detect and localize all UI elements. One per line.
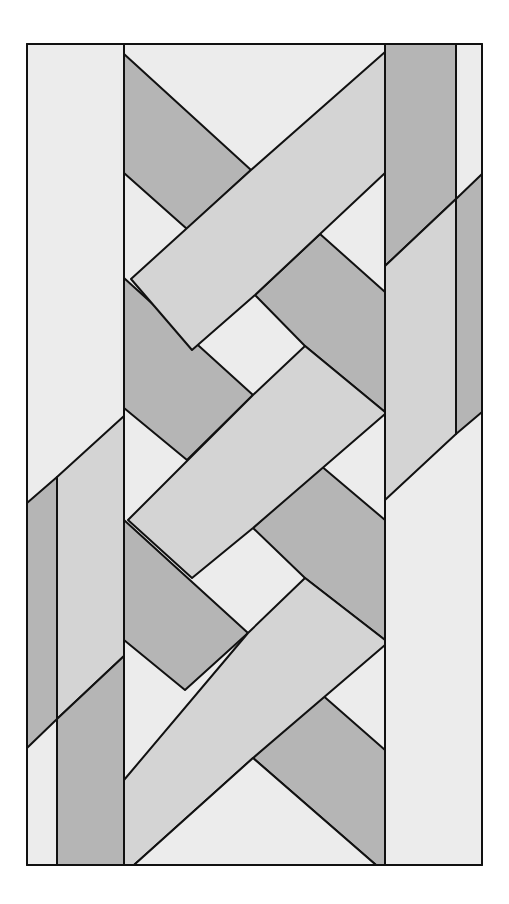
right-column <box>385 44 482 865</box>
left-band-dark-top <box>27 477 57 748</box>
left-column <box>27 44 124 865</box>
right-band-dark-thin <box>456 174 482 434</box>
center-column <box>124 44 385 865</box>
basket-weave-figure <box>0 0 509 904</box>
pattern-svg <box>0 0 509 904</box>
